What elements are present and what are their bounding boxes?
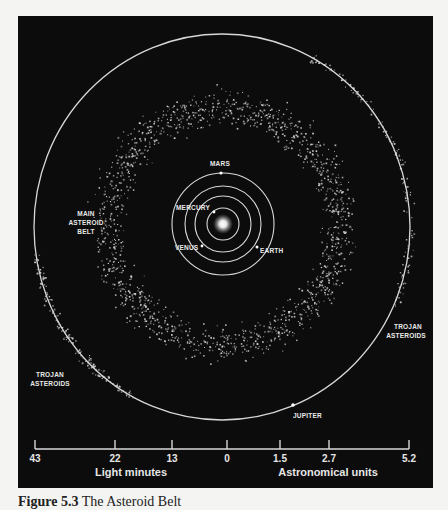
main-belt-label-line3: BELT [77,228,94,235]
scale-tick-label: 0 [224,453,230,464]
scale-tick-label: 22 [109,453,121,464]
mercury-label: MERCURY [176,204,210,211]
caption-title: The Asteroid Belt [82,494,182,509]
figure-caption: Figure 5.3 The Asteroid Belt [18,494,181,510]
trojan-right-label-line2: ASTEROIDS [386,332,426,339]
scale-tick-label: 43 [29,453,41,464]
trojan-right-label-line1: TROJAN [394,323,422,330]
scale-tick-label: 13 [166,453,178,464]
jupiter-label: JUPITER [293,412,322,419]
mars-dot [219,171,222,174]
main-belt-label-line2: ASTEROID [68,219,103,226]
mercury-dot [213,211,216,214]
sun-icon [213,214,233,234]
scale-tick-label: 5.2 [402,453,416,464]
venus-dot [201,245,204,248]
scale-ticks: 43221301.52.75.2 [29,440,416,464]
trojan-left-label-line2: ASTEROIDS [30,380,70,387]
scale-tick-label: 1.5 [273,453,287,464]
earth-dot [256,246,259,249]
caption-number: Figure 5.3 [18,494,78,509]
scale-tick-label: 2.7 [322,453,336,464]
trojan-left-label-line1: TROJAN [36,371,64,378]
jupiter-dot [291,403,295,407]
mars-label: MARS [210,160,230,167]
light-minutes-title: Light minutes [95,466,167,478]
earth-label: EARTH [260,247,283,254]
venus-label: VENUS [175,244,199,251]
astronomical-units-title: Astronomical units [278,466,378,478]
main-belt-label-line1: MAIN [77,210,95,217]
